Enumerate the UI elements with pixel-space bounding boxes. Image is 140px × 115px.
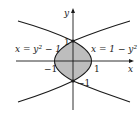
tick-x-neg1: −1 xyxy=(44,64,57,74)
tick-y-1: 1 xyxy=(64,37,70,47)
tick-y-neg1: −1 xyxy=(77,78,90,88)
tick-x-1: 1 xyxy=(94,64,100,74)
point-0-1 xyxy=(71,39,74,42)
y-axis-label: y xyxy=(63,8,70,18)
upper-outer-curve xyxy=(18,21,130,41)
y-axis-arrow-icon xyxy=(71,8,75,13)
left-curve-label: x = y² − 1 xyxy=(15,44,61,54)
lower-outer-curve xyxy=(18,81,130,102)
point-0-neg1 xyxy=(71,79,74,82)
region-diagram: y x 1 −1 −1 1 x = y² − 1 x = 1 − y² xyxy=(0,0,140,115)
x-axis-arrow-icon xyxy=(129,59,134,63)
right-curve-label: x = 1 − y² xyxy=(91,44,137,54)
x-axis-label: x xyxy=(128,64,133,74)
